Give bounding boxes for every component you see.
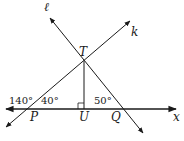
label-line-l: ℓ	[44, 0, 49, 14]
label-axis-x: x	[173, 110, 180, 124]
label-line-k: k	[131, 25, 138, 39]
angle-label-50: 50°	[94, 95, 112, 106]
geometry-diagram: ℓ k T P U Q x 140° 40° 50°	[0, 0, 184, 141]
right-angle-marker	[78, 103, 84, 109]
label-point-Q: Q	[111, 110, 121, 124]
label-point-T: T	[79, 45, 88, 59]
line-l	[50, 18, 143, 133]
angle-label-40: 40°	[41, 95, 59, 106]
label-point-P: P	[29, 110, 39, 124]
angle-label-140: 140°	[9, 95, 33, 106]
label-point-U: U	[79, 110, 90, 124]
